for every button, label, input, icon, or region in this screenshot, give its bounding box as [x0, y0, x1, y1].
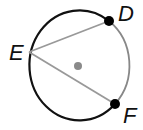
geometry-diagram: D E F [0, 0, 143, 130]
point-F [110, 99, 120, 109]
label-E: E [9, 40, 24, 65]
label-F: F [123, 103, 138, 128]
center-dot [74, 62, 82, 70]
circle-major-arc [29, 10, 115, 120]
arc-DF [109, 21, 129, 104]
chord-EF [29, 52, 115, 104]
chord-ED [29, 21, 109, 52]
label-D: D [118, 1, 134, 26]
circle-diagram-svg: D E F [0, 0, 143, 130]
point-D [104, 16, 114, 26]
